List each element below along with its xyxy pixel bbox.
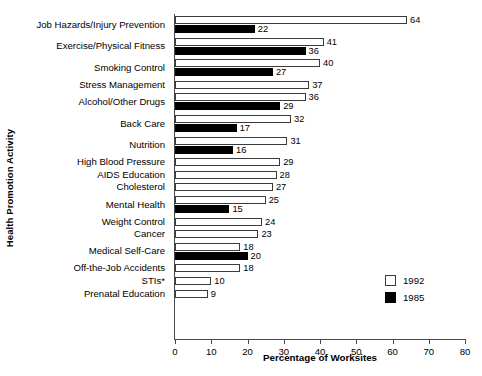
- bar-1992: [175, 183, 273, 191]
- bar-1992: [175, 277, 211, 285]
- category-label: Nutrition: [129, 140, 165, 150]
- category-label: Smoking Control: [94, 63, 165, 73]
- bar-value-1985: 29: [283, 102, 293, 110]
- bar-value-1992: 36: [309, 93, 319, 101]
- x-axis-title: Percentage of Worksites: [175, 352, 465, 363]
- x-tick: [284, 339, 285, 344]
- bar-value-1992: 24: [265, 218, 275, 226]
- x-tick: [248, 339, 249, 344]
- bar-1992: [175, 218, 262, 226]
- bar-1985: [175, 124, 237, 132]
- bar-value-1992: 25: [269, 196, 279, 204]
- category-label: High Blood Pressure: [77, 157, 165, 167]
- bar-1985: [175, 102, 280, 110]
- bar-value-1985: 17: [240, 124, 250, 132]
- bar-1992: [175, 243, 240, 251]
- bar-1992: [175, 290, 208, 298]
- bar-1992: [175, 230, 258, 238]
- bar-1992: [175, 115, 291, 123]
- bar-1985: [175, 25, 255, 33]
- x-tick: [429, 339, 430, 344]
- chart-legend: 1992 1985: [385, 272, 424, 306]
- bar-value-1985: 22: [258, 25, 268, 33]
- bar-1992: [175, 93, 306, 101]
- category-label: STIs*: [142, 276, 165, 286]
- bar-value-1985: 15: [232, 205, 242, 213]
- category-label: Back Care: [120, 119, 165, 129]
- bar-1985: [175, 68, 273, 76]
- bar-value-1992: 41: [327, 38, 337, 46]
- bar-1992: [175, 264, 240, 272]
- bar-value-1985: 36: [309, 47, 319, 55]
- category-label: Cancer: [134, 229, 165, 239]
- bar-1985: [175, 146, 233, 154]
- category-label: Cholesterol: [116, 182, 165, 192]
- legend-item-1985: 1985: [385, 289, 424, 306]
- x-tick: [211, 339, 212, 344]
- bar-value-1992: 9: [211, 290, 216, 298]
- bar-value-1992: 31: [290, 137, 300, 145]
- category-label: Alcohol/Other Drugs: [79, 97, 165, 107]
- bar-value-1992: 18: [243, 243, 253, 251]
- bar-value-1992: 10: [214, 277, 224, 285]
- category-label: Prenatal Education: [84, 289, 165, 299]
- category-label: AIDS Education: [97, 170, 165, 180]
- bar-1985: [175, 252, 248, 260]
- legend-label-1992: 1992: [403, 275, 424, 286]
- category-label: Off-the-Job Accidents: [73, 263, 165, 273]
- bar-1985: [175, 47, 306, 55]
- x-tick: [465, 339, 466, 344]
- bar-value-1985: 20: [251, 252, 261, 260]
- bar-chart: Health Promotion Activity Job Hazards/In…: [0, 0, 482, 376]
- category-label: Mental Health: [106, 200, 165, 210]
- bar-value-1992: 29: [283, 158, 293, 166]
- bar-value-1985: 27: [276, 68, 286, 76]
- y-axis-title: Health Promotion Activity: [0, 0, 18, 376]
- bar-value-1992: 18: [243, 264, 253, 272]
- bar-1992: [175, 81, 309, 89]
- category-label: Job Hazards/Injury Prevention: [36, 20, 165, 30]
- bar-value-1985: 16: [236, 146, 246, 154]
- x-tick: [356, 339, 357, 344]
- bar-value-1992: 27: [276, 183, 286, 191]
- bar-value-1992: 32: [294, 115, 304, 123]
- category-label: Stress Management: [79, 80, 165, 90]
- bar-1992: [175, 137, 287, 145]
- bar-value-1992: 23: [261, 230, 271, 238]
- legend-label-1985: 1985: [403, 292, 424, 303]
- bar-1992: [175, 59, 320, 67]
- legend-swatch-1992-icon: [385, 275, 396, 286]
- bar-value-1992: 64: [410, 16, 420, 24]
- category-label: Medical Self-Care: [89, 246, 165, 256]
- bar-1992: [175, 158, 280, 166]
- category-label-list: Job Hazards/Injury PreventionExercise/Ph…: [18, 14, 170, 339]
- x-tick: [175, 339, 176, 344]
- bar-value-1992: 28: [280, 171, 290, 179]
- bar-1985: [175, 205, 229, 213]
- bar-value-1992: 37: [312, 81, 322, 89]
- x-tick: [320, 339, 321, 344]
- category-label: Weight Control: [102, 217, 165, 227]
- legend-item-1992: 1992: [385, 272, 424, 289]
- bar-1992: [175, 16, 407, 24]
- legend-swatch-1985-icon: [385, 292, 396, 303]
- bar-1992: [175, 196, 266, 204]
- bar-1992: [175, 38, 324, 46]
- bar-value-1992: 40: [323, 59, 333, 67]
- x-tick: [393, 339, 394, 344]
- bar-1992: [175, 171, 277, 179]
- category-label: Exercise/Physical Fitness: [56, 41, 165, 51]
